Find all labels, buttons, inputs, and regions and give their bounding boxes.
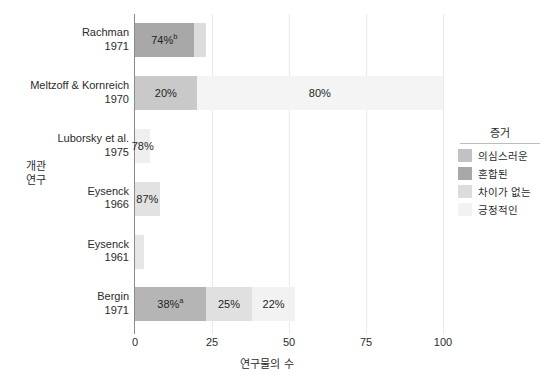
x-axis-title: 연구물의 수 [0,355,554,371]
x-tick-label-0: 0 [132,336,138,348]
x-axis-title-text: 연구물의 수 [240,355,293,371]
category-year: 1971 [3,304,129,318]
x-tick-label-75: 75 [360,336,372,348]
category-year: 1970 [3,93,129,107]
category-label-1: Rachman1971 [3,26,129,53]
legend-swatch-icon [458,167,472,180]
y-axis-title: 개관 연구 [26,159,46,187]
category-year: 1961 [3,251,129,265]
bar-5 [135,235,144,269]
bar-segment [135,235,144,269]
category-author: Eysenck [3,238,129,252]
bar-label-superscript: a [179,297,183,306]
category-label-5: Eysenck1961 [3,238,129,265]
category-label-2: Meltzoff & Kornreich1970 [3,79,129,106]
bar-segment-label: 20% [155,87,177,99]
bar-segment-label: 87% [136,193,158,205]
legend-swatch-icon [458,203,472,216]
bar-segment-label: 78% [132,140,154,152]
bar-6: 38%a25%22% [135,287,295,321]
bar-segment: 78% [135,129,150,163]
legend: 증거 의심스러운혼합된차이가 없는긍정적인 [458,124,550,216]
bar-segment: 25% [206,287,252,321]
bar-segment: 80% [197,76,443,110]
category-author: Meltzoff & Kornreich [3,79,129,93]
x-tick-label-50: 50 [283,336,295,348]
legend-swatch-icon [458,149,472,162]
category-author: Rachman [3,26,129,40]
category-label-3: Luborsky et al.1975 [3,132,129,159]
bar-segment: 74%b [135,23,194,57]
bar-label-superscript: b [173,33,177,42]
bar-3: 78% [135,129,150,163]
legend-swatch-icon [458,185,472,198]
category-year: 1971 [3,40,129,54]
bar-segment: 38%a [135,287,206,321]
legend-label: 혼합된 [478,166,508,181]
x-tick-label-25: 25 [206,336,218,348]
category-author: Eysenck [3,185,129,199]
category-label-6: Bergin1971 [3,290,129,317]
bar-1: 74%b [135,23,206,57]
category-year: 1966 [3,198,129,212]
bar-segment: 20% [135,76,197,110]
chart-root: 74%b20%80%78%87%38%a25%22% Rachman1971Me… [0,0,554,380]
bar-4: 87% [135,182,160,216]
bar-2: 20%80% [135,76,443,110]
bar-segment-label: 25% [218,298,240,310]
bar-segment-label: 38%a [157,298,183,310]
x-tick-label-100: 100 [434,336,452,348]
bar-segment [194,23,206,57]
bar-segment-label: 22% [263,298,285,310]
category-label-4: Eysenck1966 [3,185,129,212]
legend-label: 긍정적인 [478,202,518,217]
legend-label: 차이가 없는 [478,184,531,199]
legend-item-3[interactable]: 차이가 없는 [458,184,550,198]
bar-segment: 22% [252,287,295,321]
legend-item-4[interactable]: 긍정적인 [458,202,550,216]
bar-segment: 87% [135,182,160,216]
bar-segment-label: 74%b [151,34,177,46]
legend-label: 의심스러운 [478,148,528,163]
category-author: Luborsky et al. [3,132,129,146]
legend-item-1[interactable]: 의심스러운 [458,148,550,162]
category-author: Bergin [3,290,129,304]
legend-items: 의심스러운혼합된차이가 없는긍정적인 [458,148,550,216]
bar-segment-label: 80% [309,87,331,99]
plot-area: 74%b20%80%78%87%38%a25%22% [135,14,443,331]
gridline-100 [443,14,444,334]
legend-title: 증거 [460,124,540,144]
legend-item-2[interactable]: 혼합된 [458,166,550,180]
category-year: 1975 [3,146,129,160]
